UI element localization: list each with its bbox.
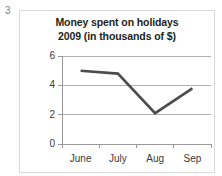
page-number: 3 — [5, 6, 11, 16]
y-axis-tick-label: 4 — [33, 80, 55, 90]
x-axis-tick-label: July — [109, 154, 127, 164]
x-axis-tick-label: Aug — [146, 154, 164, 164]
chart-frame: Money spent on holidays 2009 (in thousan… — [19, 10, 215, 173]
y-axis-tick-label: 2 — [33, 110, 55, 120]
x-axis-tick-label: June — [70, 154, 92, 164]
y-axis-ticks — [58, 56, 62, 144]
plot-area: 0246 JuneJulyAugSep — [20, 11, 214, 172]
y-axis-tick-label: 6 — [33, 51, 55, 61]
data-series-line — [81, 71, 193, 114]
x-axis-tick-label: Sep — [183, 154, 201, 164]
y-axis-tick-label: 0 — [33, 139, 55, 149]
x-axis-ticks — [62, 144, 211, 148]
gridlines — [62, 56, 211, 115]
